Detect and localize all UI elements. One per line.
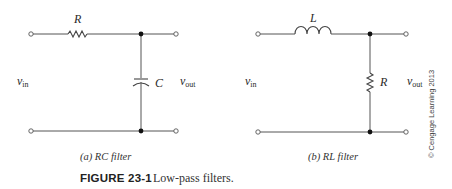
- rl-top-node-dot: [368, 32, 373, 37]
- rl-output-terminal-bottom: [404, 130, 408, 134]
- rc-input-terminal-bottom: [29, 129, 33, 133]
- rc-vout-label: vout: [180, 74, 196, 89]
- figure-number: FIGURE 23-1: [80, 172, 152, 184]
- rl-inductor-symbol: [295, 27, 331, 35]
- rc-vin-label: vin: [17, 74, 29, 89]
- rl-inductor-label: L: [309, 11, 317, 25]
- rc-capacitor-label: C: [155, 76, 164, 90]
- copyright-notice: © Cengage Learning 2013: [427, 70, 436, 158]
- rl-output-terminal-top: [404, 32, 408, 36]
- rc-filter-caption: (a) RC filter: [80, 151, 132, 163]
- rl-vout-label: vout: [407, 74, 423, 89]
- figure-canvas: R C vin vout (a) RC filter L R vin vout …: [0, 0, 452, 189]
- rc-resistor-label: R: [73, 12, 82, 26]
- rc-input-terminal-top: [29, 32, 33, 36]
- rl-resistor-label: R: [379, 75, 388, 89]
- rc-top-node-dot: [139, 32, 144, 37]
- rl-input-terminal-bottom: [256, 130, 260, 134]
- rc-bottom-node-dot: [139, 129, 144, 134]
- rl-vin-label: vin: [245, 74, 257, 89]
- figure-title: Low-pass filters.: [153, 171, 234, 185]
- rl-filter-caption: (b) RL filter: [308, 151, 359, 163]
- rc-filter-circuit: R C vin vout (a) RC filter: [17, 12, 196, 163]
- rl-shunt-resistor-symbol: [367, 73, 373, 92]
- rc-series-resistor-symbol: [68, 31, 87, 37]
- rl-input-terminal-top: [256, 32, 260, 36]
- rc-output-terminal-bottom: [174, 129, 178, 133]
- rl-bottom-node-dot: [368, 130, 373, 135]
- rl-filter-circuit: L R vin vout (b) RL filter: [245, 11, 423, 163]
- rc-output-terminal-top: [174, 32, 178, 36]
